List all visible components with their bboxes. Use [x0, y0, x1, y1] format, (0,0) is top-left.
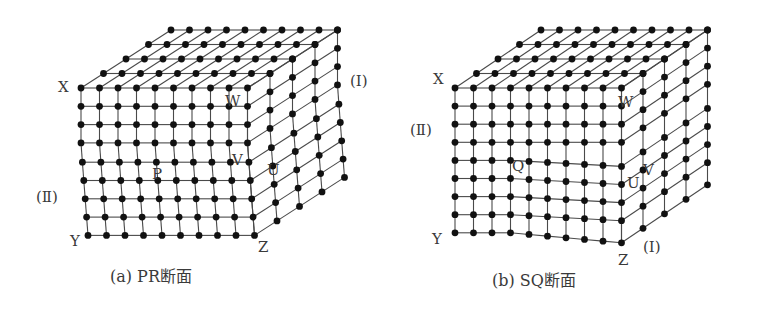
fig-b-label-region-ii: (Ⅱ) — [410, 123, 432, 138]
fig-b-label-q: Q — [512, 159, 524, 174]
fig-a-label-y: Y — [70, 234, 80, 249]
fig-b-label-x: X — [433, 72, 444, 87]
fig-a-label-u: U — [267, 163, 280, 178]
fig-b-label-y: Y — [432, 232, 442, 247]
fig-b-label-w: W — [618, 95, 633, 110]
fig-a-label-v: V — [232, 153, 243, 168]
figure-b-lattice — [452, 27, 711, 247]
fig-a-caption: (a) PR断面 — [110, 263, 192, 287]
fig-b-label-u: U — [627, 176, 640, 191]
fig-a-label-w: W — [225, 94, 240, 109]
fig-a-label-x: X — [58, 80, 69, 95]
fig-b-label-z: Z — [618, 253, 628, 268]
figure-a-lattice — [78, 27, 348, 239]
fig-a-label-region-ii: (Ⅱ) — [36, 190, 58, 205]
fig-b-label-region-i: (Ⅰ) — [643, 240, 661, 255]
fig-b-caption: (b) SQ断面 — [492, 267, 576, 291]
fig-a-label-region-i: (Ⅰ) — [350, 74, 368, 89]
fig-b-label-v: V — [643, 163, 654, 178]
fig-a-label-z: Z — [258, 240, 268, 255]
fig-a-label-p: P — [152, 167, 162, 182]
